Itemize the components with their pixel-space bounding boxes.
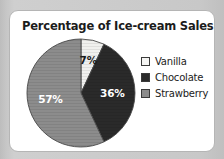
legend-swatch-vanilla <box>141 57 150 66</box>
legend-label-strawberry: Strawberry <box>155 88 208 99</box>
legend-item-strawberry[interactable]: Strawberry <box>141 85 215 101</box>
legend-item-chocolate[interactable]: Chocolate <box>141 69 215 85</box>
legend-swatch-chocolate <box>141 73 150 82</box>
chart-card: Percentage of Ice-cream Sales 7%36%57% V… <box>9 10 215 152</box>
legend-item-vanilla[interactable]: Vanilla <box>141 53 215 69</box>
pie-label-vanilla: 7% <box>80 54 98 66</box>
legend-label-chocolate: Chocolate <box>155 72 203 83</box>
legend-label-vanilla: Vanilla <box>155 56 187 67</box>
chart-legend: Vanilla Chocolate Strawberry <box>141 53 215 101</box>
pie-label-chocolate: 36% <box>100 87 125 99</box>
pie-label-strawberry: 57% <box>38 93 63 105</box>
legend-swatch-strawberry <box>141 89 150 98</box>
